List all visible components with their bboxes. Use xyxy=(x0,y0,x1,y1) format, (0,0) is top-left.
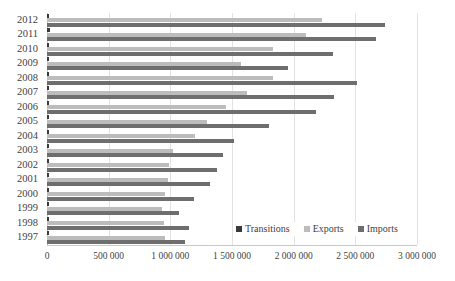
y-axis-tick-label: 2006 xyxy=(17,102,38,113)
bar-exports-2009[interactable] xyxy=(47,62,241,66)
x-axis-tick-label: 1 000 000 xyxy=(151,250,189,262)
bar-transitions-2002[interactable] xyxy=(47,159,49,163)
x-axis-tick-label: 1 500 000 xyxy=(213,250,251,262)
y-axis-tick-label: 2000 xyxy=(17,189,38,200)
bar-exports-2006[interactable] xyxy=(47,105,226,109)
y-axis-tick-label: 1998 xyxy=(17,218,38,229)
bar-imports-2009[interactable] xyxy=(47,66,288,70)
bar-transitions-2008[interactable] xyxy=(47,72,49,76)
y-axis-tick-label: 2008 xyxy=(17,73,38,84)
bar-imports-2012[interactable] xyxy=(47,23,385,27)
y-axis-tick-label: 2011 xyxy=(17,29,38,40)
bar-group xyxy=(47,28,417,41)
bar-imports-2005[interactable] xyxy=(47,124,269,128)
bar-transitions-2010[interactable] xyxy=(47,43,49,47)
y-axis-tick-label: 2003 xyxy=(17,145,38,156)
bar-group xyxy=(47,173,417,186)
x-axis-tick-label: 3 000 000 xyxy=(398,250,436,262)
x-axis-line xyxy=(47,245,417,246)
legend-label: Imports xyxy=(367,223,398,235)
legend-item-exports[interactable]: Exports xyxy=(304,223,344,235)
legend-item-transitions[interactable]: Transitions xyxy=(236,223,290,235)
bar-imports-2001[interactable] xyxy=(47,182,210,186)
bar-exports-2000[interactable] xyxy=(47,192,165,196)
bar-transitions-2011[interactable] xyxy=(47,28,50,32)
bar-transitions-1998[interactable] xyxy=(47,217,49,221)
bar-exports-2012[interactable] xyxy=(47,18,322,22)
bar-exports-2007[interactable] xyxy=(47,91,247,95)
bar-exports-1997[interactable] xyxy=(47,236,165,240)
bar-imports-1999[interactable] xyxy=(47,211,179,215)
legend-swatch-icon xyxy=(358,226,364,232)
bar-transitions-2005[interactable] xyxy=(47,115,49,119)
bar-exports-2004[interactable] xyxy=(47,134,195,138)
y-axis-tick-label: 2009 xyxy=(17,58,38,69)
legend-item-imports[interactable]: Imports xyxy=(358,223,398,235)
bar-group xyxy=(47,101,417,114)
bar-imports-2010[interactable] xyxy=(47,52,333,56)
legend-label: Exports xyxy=(313,223,344,235)
bar-transitions-2006[interactable] xyxy=(47,101,49,105)
bar-exports-1998[interactable] xyxy=(47,221,164,225)
y-axis-tick-label: 2002 xyxy=(17,160,38,171)
legend-swatch-icon xyxy=(304,226,310,232)
bar-imports-1997[interactable] xyxy=(47,240,185,244)
bar-exports-2005[interactable] xyxy=(47,120,207,124)
bar-imports-2011[interactable] xyxy=(47,37,376,41)
x-axis-labels: 0500 0001 000 0001 500 0002 000 0002 500… xyxy=(0,250,455,268)
y-axis-tick-label: 2005 xyxy=(17,116,38,127)
bar-transitions-2007[interactable] xyxy=(47,86,49,90)
y-axis-tick-label: 1997 xyxy=(17,232,38,243)
bar-exports-2002[interactable] xyxy=(47,163,169,167)
bar-imports-2003[interactable] xyxy=(47,153,223,157)
x-axis-tick-label: 500 000 xyxy=(93,250,124,262)
bar-exports-2003[interactable] xyxy=(47,149,173,153)
y-axis-labels: 2012201120102009200820072006200520042003… xyxy=(0,13,43,245)
chart-legend: TransitionsExportsImports xyxy=(234,222,400,236)
bar-group xyxy=(47,159,417,172)
bar-imports-2008[interactable] xyxy=(47,81,357,85)
legend-swatch-icon xyxy=(236,226,242,232)
bar-imports-2007[interactable] xyxy=(47,95,334,99)
bar-transitions-2001[interactable] xyxy=(47,173,49,177)
bar-chart: 2012201120102009200820072006200520042003… xyxy=(0,0,455,281)
bar-imports-2006[interactable] xyxy=(47,110,316,114)
legend-label: Transitions xyxy=(245,223,290,235)
plot-area xyxy=(47,13,417,245)
bar-group xyxy=(47,202,417,215)
y-axis-tick-label: 2004 xyxy=(17,131,38,142)
x-axis-tick-label: 0 xyxy=(45,250,50,262)
bar-imports-2000[interactable] xyxy=(47,197,194,201)
bar-exports-2010[interactable] xyxy=(47,47,273,51)
y-axis-tick-label: 2012 xyxy=(17,15,38,26)
y-axis-tick-label: 2001 xyxy=(17,174,38,185)
bar-group xyxy=(47,57,417,70)
y-axis-tick-label: 1999 xyxy=(17,203,38,214)
bar-transitions-1997[interactable] xyxy=(47,231,49,235)
y-axis-tick-label: 2010 xyxy=(17,44,38,55)
bar-group xyxy=(47,72,417,85)
bar-transitions-2003[interactable] xyxy=(47,144,49,148)
bar-exports-2001[interactable] xyxy=(47,178,168,182)
bar-imports-2004[interactable] xyxy=(47,139,234,143)
bar-group xyxy=(47,188,417,201)
bar-group xyxy=(47,86,417,99)
bar-imports-2002[interactable] xyxy=(47,168,217,172)
bar-transitions-1999[interactable] xyxy=(47,202,49,206)
bar-transitions-2009[interactable] xyxy=(47,57,49,61)
gridline xyxy=(417,13,418,245)
bar-group xyxy=(47,14,417,27)
bar-exports-1999[interactable] xyxy=(47,207,162,211)
bar-exports-2008[interactable] xyxy=(47,76,273,80)
bar-transitions-2012[interactable] xyxy=(47,14,49,18)
y-axis-tick-label: 2007 xyxy=(17,87,38,98)
bar-group xyxy=(47,43,417,56)
bar-imports-1998[interactable] xyxy=(47,226,189,230)
x-axis-tick-label: 2 000 000 xyxy=(275,250,313,262)
bar-exports-2011[interactable] xyxy=(47,33,306,37)
bar-group xyxy=(47,130,417,143)
bar-transitions-2004[interactable] xyxy=(47,130,49,134)
x-axis-tick-label: 2 500 000 xyxy=(336,250,374,262)
bar-group xyxy=(47,144,417,157)
bar-transitions-2000[interactable] xyxy=(47,188,49,192)
